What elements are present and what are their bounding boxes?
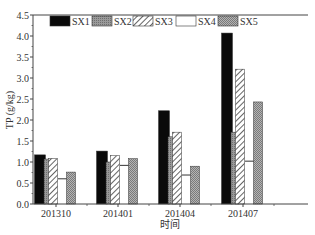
legend-swatch-sx1 [50,16,70,26]
y-tick-label: 2.5 [17,94,30,105]
bars-group [35,33,263,204]
x-axis-title: 时间 [160,218,180,230]
y-tick-label: 1.5 [17,136,30,147]
bar-chart: TP (g/kg) 0.00.51.01.52.02.53.03.54.04.5… [0,0,315,235]
y-tick-label: 2.0 [17,115,30,126]
legend-swatch-sx2 [92,16,112,26]
y-tick-label: 3.0 [17,73,30,84]
x-tick-label: 201310 [41,208,71,219]
y-axis-title: TP (g/kg) [4,91,16,129]
bar-sx5-201404 [191,166,200,204]
bar-sx5-201310 [67,172,76,204]
svg-text:时间: 时间 [160,218,180,230]
svg-text:TP (g/kg): TP (g/kg) [4,91,16,129]
y-tick-label: 1.0 [17,157,30,168]
y-tick-label: 4.5 [17,10,30,21]
bar-sx3-201407 [236,69,245,204]
bar-sx5-201401 [129,159,138,204]
legend-label-sx4: SX4 [198,16,216,27]
legend-label-sx3: SX3 [155,16,173,27]
legend-swatch-sx4 [176,16,196,26]
x-tick-label: 201401 [103,208,133,219]
bar-sx3-201401 [111,156,120,204]
bar-sx5-201407 [254,102,263,204]
y-tick-label: 0.0 [17,199,30,210]
legend-label-sx1: SX1 [72,16,90,27]
legend-label-sx5: SX5 [240,16,258,27]
x-tick-label: 201407 [228,208,258,219]
legend: SX1SX2SX3SX4SX5 [50,16,258,27]
y-tick-label: 4.0 [17,31,30,42]
y-tick-label: 0.5 [17,178,30,189]
legend-swatch-sx3 [133,16,153,26]
y-tick-label: 3.5 [17,52,30,63]
legend-swatch-sx5 [218,16,238,26]
legend-label-sx2: SX2 [114,16,132,27]
x-tick-label: 201404 [165,208,195,219]
bar-sx3-201310 [49,159,58,204]
bar-sx3-201404 [173,132,182,204]
